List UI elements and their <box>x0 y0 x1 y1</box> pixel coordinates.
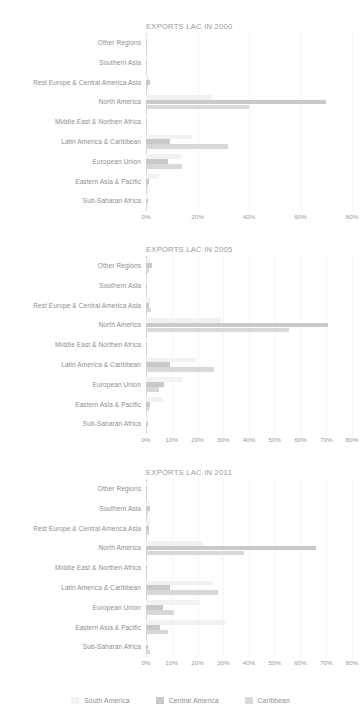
bar-group-row: European Union <box>0 375 361 395</box>
category-label: Eastern Asia & Pacific <box>0 172 141 192</box>
bar-group-row: Rest Europe & Central America Asia <box>0 519 361 539</box>
bar-rows: Other RegionsSouthern AsiaRest Europe & … <box>0 256 361 434</box>
chart-title: EXPORTS LAC IN 2011 <box>0 466 361 479</box>
bars-container <box>146 414 352 434</box>
bars-container <box>146 375 352 395</box>
x-tick-label: 30% <box>217 436 230 443</box>
plot-area: Other RegionsSouthern AsiaRest Europe & … <box>0 256 361 434</box>
bars-container <box>146 112 352 132</box>
bars-container <box>146 73 352 93</box>
chart-title: EXPORTS LAC IN 2000 <box>0 20 361 33</box>
plot-area: Other RegionsSouthern AsiaRest Europe & … <box>0 33 361 211</box>
bar-caribbean <box>146 65 147 70</box>
category-label: North America <box>0 538 141 558</box>
bar-group-row: Eastern Asia & Pacific <box>0 172 361 192</box>
bar-group-row: European Union <box>0 152 361 172</box>
legend-swatch-icon <box>245 697 253 704</box>
bar-caribbean <box>146 511 148 516</box>
bars-container <box>146 355 352 375</box>
category-label: Rest Europe & Central America Asia <box>0 519 141 539</box>
bars-container <box>146 479 352 499</box>
bars-container <box>146 92 352 112</box>
bar-group-row: Other Regions <box>0 479 361 499</box>
x-tick-label: 40% <box>243 436 256 443</box>
bar-caribbean <box>146 630 168 635</box>
bars-container <box>146 499 352 519</box>
bar-caribbean <box>146 105 249 110</box>
bars-container <box>146 618 352 638</box>
bars-container <box>146 578 352 598</box>
category-label: Rest Europe & Central America Asia <box>0 296 141 316</box>
bar-caribbean <box>146 164 182 169</box>
bar-group-row: Eastern Asia & Pacific <box>0 395 361 415</box>
x-tick-label: 50% <box>268 436 281 443</box>
category-label: Rest Europe & Central America Asia <box>0 73 141 93</box>
x-tick-label: 60% <box>294 659 307 666</box>
exports-lac-chart-page: EXPORTS LAC IN 2000 Other RegionsSouther… <box>0 0 361 722</box>
bar-caribbean <box>146 407 149 412</box>
bar-caribbean <box>146 367 214 372</box>
x-axis: 0%20%40%60%80% <box>0 211 361 225</box>
bar-group-row: North America <box>0 92 361 112</box>
bar-group-row: Latin America & Caribbean <box>0 355 361 375</box>
legend-caribbean[interactable]: Caribbean <box>245 697 290 704</box>
bar-caribbean <box>146 347 147 352</box>
legend-swatch-icon <box>156 697 164 704</box>
legend-south-america[interactable]: South America <box>71 697 130 704</box>
x-tick-label: 20% <box>191 213 204 220</box>
category-label: Latin America & Caribbean <box>0 578 141 598</box>
bars-container <box>146 538 352 558</box>
bar-group-row: Middle East & Northen Africa <box>0 335 361 355</box>
category-label: Latin America & Caribbean <box>0 132 141 152</box>
bar-group-row: Other Regions <box>0 256 361 276</box>
category-label: Middle East & Northen Africa <box>0 112 141 132</box>
category-label: Middle East & Northen Africa <box>0 335 141 355</box>
bar-group-row: Southern Asia <box>0 53 361 73</box>
bars-container <box>146 637 352 657</box>
bars-container <box>146 132 352 152</box>
x-tick-label: 0% <box>141 213 150 220</box>
bars-container <box>146 172 352 192</box>
x-axis: 0%10%20%30%40%50%60%70%80% <box>0 434 361 448</box>
bars-container <box>146 315 352 335</box>
legend-label: South America <box>84 697 130 704</box>
bar-group-row: North America <box>0 315 361 335</box>
bars-container <box>146 152 352 172</box>
chart-exports-lac-2005: EXPORTS LAC IN 2005 Other RegionsSouther… <box>0 243 361 448</box>
x-tick-label: 60% <box>294 213 307 220</box>
x-tick-label: 80% <box>346 659 359 666</box>
bar-caribbean <box>146 610 174 615</box>
x-axis: 0%10%20%30%40%50%60%70%80% <box>0 657 361 671</box>
bar-group-row: Other Regions <box>0 33 361 53</box>
bar-caribbean <box>146 650 150 655</box>
bars-container <box>146 33 352 53</box>
bar-caribbean <box>146 45 147 50</box>
x-tick-label: 20% <box>191 436 204 443</box>
bar-group-row: Southern Asia <box>0 276 361 296</box>
bar-caribbean <box>146 491 147 496</box>
category-label: European Union <box>0 152 141 172</box>
legend-swatch-icon <box>71 697 79 704</box>
bars-container <box>146 335 352 355</box>
x-tick-label: 80% <box>346 213 359 220</box>
legend-central-america[interactable]: Central America <box>156 697 219 704</box>
x-tick-label: 10% <box>165 659 178 666</box>
bar-group-row: North America <box>0 538 361 558</box>
x-tick-label: 80% <box>346 436 359 443</box>
bar-caribbean <box>146 144 228 149</box>
plot-area: Other RegionsSouthern AsiaRest Europe & … <box>0 479 361 657</box>
bar-rows: Other RegionsSouthern AsiaRest Europe & … <box>0 479 361 657</box>
category-label: North America <box>0 315 141 335</box>
category-label: North America <box>0 92 141 112</box>
bar-caribbean <box>146 184 148 189</box>
bar-caribbean <box>146 387 159 392</box>
bar-group-row: Middle East & Northen Africa <box>0 112 361 132</box>
bar-caribbean <box>146 124 147 129</box>
bars-container <box>146 296 352 316</box>
category-label: European Union <box>0 598 141 618</box>
category-label: European Union <box>0 375 141 395</box>
category-label: Latin America & Caribbean <box>0 355 141 375</box>
chart-exports-lac-2011: EXPORTS LAC IN 2011 Other RegionsSouther… <box>0 466 361 671</box>
category-label: Sub-Saharan Africa <box>0 414 141 434</box>
bar-group-row: Latin America & Caribbean <box>0 578 361 598</box>
